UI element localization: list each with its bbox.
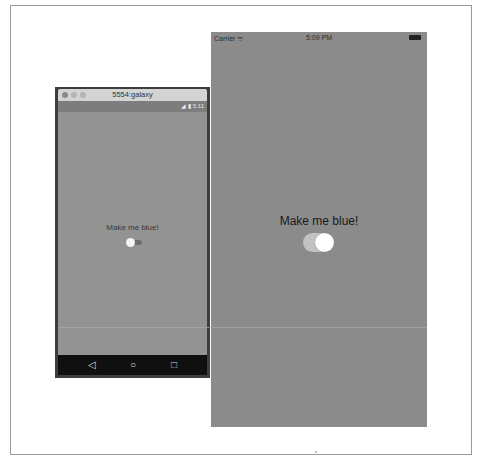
ios-simulator-screen: Carrier ᯤ 5:09 PM Make me blue!	[211, 32, 427, 427]
page-marker	[315, 451, 317, 453]
switch-thumb[interactable]	[126, 238, 135, 247]
ios-toggle-switch[interactable]	[303, 233, 334, 252]
toggle-knob[interactable]	[315, 233, 334, 252]
ios-clock: 5:09 PM	[211, 34, 427, 41]
status-icons: ◢ ▮ 5:11	[181, 102, 204, 109]
android-app-content: Make me blue!	[58, 112, 207, 355]
recents-icon[interactable]: □	[168, 359, 180, 371]
emulator-title-bar[interactable]: 5554:galaxy	[58, 89, 207, 101]
make-me-blue-label: Make me blue!	[211, 214, 427, 228]
back-icon[interactable]: ◁	[86, 359, 98, 371]
emulator-title: 5554:galaxy	[58, 90, 207, 99]
make-me-blue-label: Make me blue!	[58, 223, 207, 232]
divider-line	[58, 327, 427, 328]
battery-icon	[409, 35, 421, 40]
android-status-bar: ◢ ▮ 5:11	[58, 101, 207, 112]
android-switch[interactable]	[126, 238, 142, 247]
home-icon[interactable]: ○	[127, 359, 139, 371]
ios-status-bar: Carrier ᯤ 5:09 PM	[211, 32, 427, 44]
android-emulator-window: 5554:galaxy ◢ ▮ 5:11 Make me blue! ◁ ○ □	[55, 87, 210, 378]
android-nav-bar: ◁ ○ □	[58, 355, 207, 375]
